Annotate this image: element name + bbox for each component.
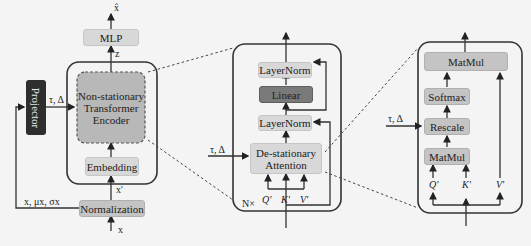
embedding-block: Embedding xyxy=(85,157,139,176)
q-label: Q' xyxy=(262,194,271,205)
v-label-right: V' xyxy=(496,179,504,190)
layernorm-bottom: LayerNorm xyxy=(258,115,312,131)
stats-label: x, μx, σx xyxy=(24,196,60,207)
q-label-right: Q' xyxy=(429,179,438,190)
tau-delta-label-mid: τ, Δ xyxy=(210,144,225,155)
normalization-block: Normalization xyxy=(79,200,145,217)
repeat-label: N× xyxy=(242,198,255,209)
softmax-block: Softmax xyxy=(424,88,470,105)
linear-block: Linear xyxy=(259,86,313,103)
k-label: K' xyxy=(281,194,290,205)
attention-block: De-stationary Attention xyxy=(250,143,322,174)
output-label: x̂ xyxy=(114,2,119,13)
projector-block: Projector xyxy=(26,80,46,135)
encoder-block: Non-stationary Transformer Encoder xyxy=(77,72,145,143)
matmul-top: MatMul xyxy=(424,52,508,71)
rescale-block: Rescale xyxy=(424,118,470,135)
tau-delta-label: τ, Δ xyxy=(49,94,64,105)
tau-delta-label-right: τ, Δ xyxy=(388,113,403,124)
v-label: V' xyxy=(300,194,308,205)
matmul-bottom: MatMul xyxy=(424,148,470,165)
xprime-label: x' xyxy=(116,184,123,195)
layernorm-top: LayerNorm xyxy=(258,62,312,78)
k-label-right: K' xyxy=(462,179,471,190)
projector-label: Projector xyxy=(30,87,42,127)
z-label: z xyxy=(115,48,119,59)
mlp-block: MLP xyxy=(83,29,139,46)
input-label: x xyxy=(118,224,123,235)
